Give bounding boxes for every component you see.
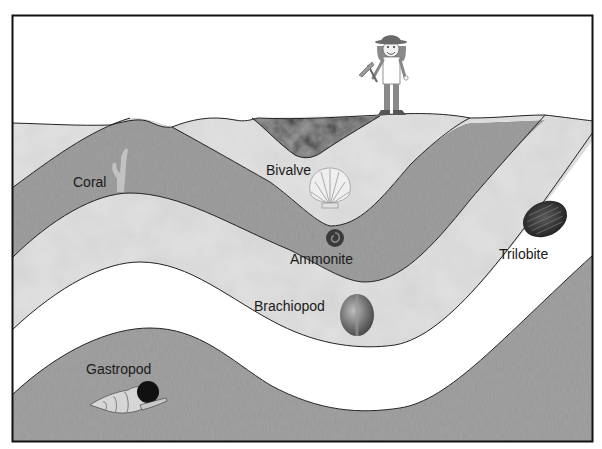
label-coral: Coral xyxy=(73,174,106,190)
label-bivalve: Bivalve xyxy=(266,162,311,178)
label-trilobite: Trilobite xyxy=(499,246,548,262)
ammonite-icon xyxy=(326,229,344,247)
label-gastropod: Gastropod xyxy=(86,361,151,377)
geology-diagram: Coral Bivalve Ammonite Trilobite Brachio… xyxy=(0,0,602,449)
label-brachiopod: Brachiopod xyxy=(254,298,325,314)
brachiopod-icon xyxy=(340,294,374,336)
label-ammonite: Ammonite xyxy=(290,251,353,267)
